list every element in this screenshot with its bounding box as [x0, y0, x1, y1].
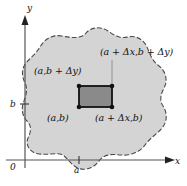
point-label-top-left: (a,b + Δy): [34, 66, 81, 76]
x-tick-label-a: a: [74, 166, 79, 175]
y-axis-arrow: [22, 15, 29, 25]
corner-dot-top-left: [77, 84, 82, 89]
origin-label: 0: [10, 163, 16, 172]
corner-dot-top-right: [110, 84, 115, 89]
increment-rectangle: [79, 86, 112, 107]
x-axis-arrow: [165, 157, 175, 164]
point-label-top-right: (a + Δx,b + Δy): [100, 47, 173, 57]
figure-canvas: [0, 0, 187, 186]
point-label-bottom-left: (a,b): [47, 113, 69, 123]
x-axis-label: x: [175, 157, 180, 166]
point-label-bottom-right: (a + Δx,b): [95, 113, 142, 123]
rectangle-in-region-figure: y x 0 a b (a,b) (a,b + Δy) (a + Δx,b) (a…: [0, 0, 187, 186]
y-axis-label: y: [27, 4, 32, 13]
y-tick-label-b: b: [10, 100, 16, 109]
corner-dot-bottom-right: [110, 105, 115, 110]
corner-dot-bottom-left: [77, 105, 82, 110]
